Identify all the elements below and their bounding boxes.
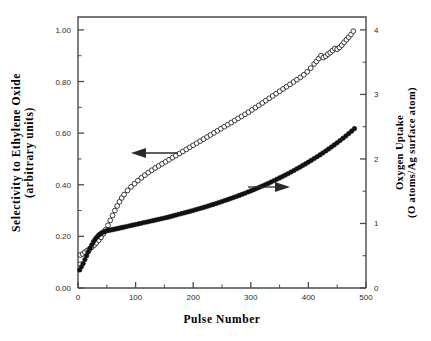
series-open-circles: [78, 29, 356, 258]
y-left-tick-label: 0.60: [55, 129, 71, 138]
data-point-open: [122, 192, 127, 197]
y-right-tick-label: 2: [374, 155, 379, 164]
x-tick-label: 200: [187, 293, 201, 302]
data-point-open: [108, 218, 113, 223]
data-point-open: [112, 208, 117, 213]
x-tick-label: 400: [302, 293, 316, 302]
x-tick-label: 0: [76, 293, 81, 302]
x-axis-title: Pulse Number: [183, 313, 260, 325]
y-right-tick-label: 3: [374, 90, 379, 99]
arrow-left-icon: [131, 148, 146, 158]
x-tick-label: 300: [244, 293, 258, 302]
y-right-tick-label: 4: [374, 26, 379, 35]
chart-canvas: 01002003004005000.000.200.400.600.801.00…: [0, 0, 431, 341]
y-left-tick-label: 0.00: [55, 284, 71, 293]
y-left-tick-label: 1.00: [55, 26, 71, 35]
figure-container: 01002003004005000.000.200.400.600.801.00…: [0, 0, 431, 341]
data-point-filled: [352, 126, 357, 131]
x-tick-label: 100: [129, 293, 143, 302]
data-point-open: [308, 66, 313, 71]
y-left-axis-title-line1: Selectivity to Ethylene Oxide: [10, 73, 23, 232]
y-right-axis-title-line2: (O atoms/Ag surface atom): [406, 87, 418, 218]
y-right-tick-label: 0: [374, 284, 379, 293]
data-point-open: [106, 223, 111, 228]
data-point-open: [110, 213, 115, 218]
y-left-axis-title-line2: (arbitrary units): [23, 107, 36, 198]
y-left-tick-label: 0.40: [55, 181, 71, 190]
y-right-tick-label: 1: [374, 219, 379, 228]
y-left-tick-label: 0.80: [55, 78, 71, 87]
data-point-open: [351, 29, 356, 34]
arrow-right-icon: [275, 182, 290, 192]
x-tick-label: 500: [359, 293, 373, 302]
y-right-axis-title-line1: Oxygen Uptake: [394, 115, 405, 190]
y-left-tick-label: 0.20: [55, 232, 71, 241]
